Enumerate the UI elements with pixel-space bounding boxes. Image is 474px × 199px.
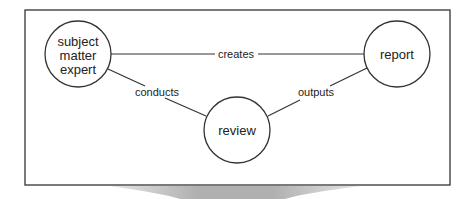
edge-label-conducts: conducts (135, 86, 180, 98)
node-label-line: matter (60, 48, 98, 63)
node-label-line: report (380, 47, 414, 62)
node-label-line: expert (60, 62, 97, 77)
node-label-line: review (218, 123, 256, 138)
frame-shadow (110, 186, 360, 199)
node-report: report (364, 21, 430, 87)
node-review: review (204, 97, 270, 163)
node-label-line: subject (57, 34, 99, 49)
edge-label-creates: creates (218, 48, 255, 60)
node-subject-matter-expert: subject matter expert (45, 21, 111, 87)
diagram-canvas: creates conducts outputs subject matter … (0, 0, 474, 199)
edge-label-outputs: outputs (298, 86, 335, 98)
